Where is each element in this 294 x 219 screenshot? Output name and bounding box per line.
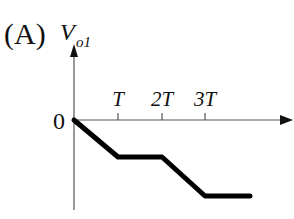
x-axis-arrow-icon xyxy=(280,115,293,125)
origin-label: 0 xyxy=(53,108,65,134)
x-tick-label: 3T xyxy=(193,87,218,111)
vo1-waveform xyxy=(74,120,250,196)
y-axis-label: V xyxy=(60,19,77,45)
chart-label: (A) xyxy=(4,17,46,51)
y-axis-label-subscript: o1 xyxy=(76,34,91,50)
x-tick-label: T xyxy=(112,87,125,111)
chart: (A) V o1 T 2T 3T 0 xyxy=(0,0,294,219)
x-tick-label: 2T xyxy=(151,87,175,111)
